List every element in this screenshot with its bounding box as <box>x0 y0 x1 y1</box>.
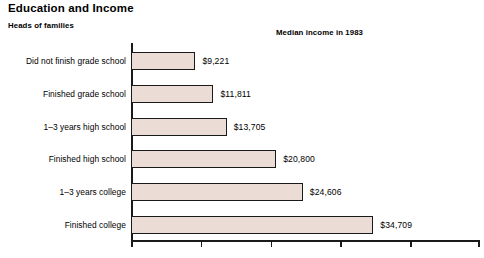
category-label: 1–3 years college <box>60 187 127 197</box>
page-title: Education and Income <box>8 2 134 14</box>
category-label-wrap: 1–3 years college <box>6 183 126 201</box>
category-label: Finished grade school <box>43 89 126 99</box>
category-label-wrap: Finished college <box>6 216 126 234</box>
bar-row: Finished high school$20,800 <box>131 150 478 168</box>
x-axis-tick <box>201 240 203 247</box>
bar-row: 1–3 years college$24,606 <box>131 183 478 201</box>
category-label: Finished college <box>65 220 126 230</box>
category-label: Did not finish grade school <box>26 56 126 66</box>
bar-value-label: $24,606 <box>310 187 342 197</box>
category-label: Finished high school <box>49 154 126 164</box>
x-axis-tick <box>271 240 273 247</box>
chart-subtitle-left: Heads of families <box>8 21 74 30</box>
bar <box>131 150 276 168</box>
bar-value-label: $11,811 <box>220 89 251 99</box>
x-axis-tick <box>340 240 342 247</box>
bar-value-label: $9,221 <box>202 56 229 66</box>
bar-value-label: $20,800 <box>283 154 315 164</box>
bar-row: 1–3 years high school$13,705 <box>131 118 478 136</box>
category-label: 1–3 years high school <box>43 122 126 132</box>
bar <box>131 183 303 201</box>
chart-container: Education and Income Heads of families M… <box>0 0 484 258</box>
bar-value-label: $34,709 <box>380 220 412 230</box>
bar <box>131 52 195 70</box>
bar-row: Did not finish grade school$9,221 <box>131 52 478 70</box>
bar <box>131 216 373 234</box>
bar-row: Finished college$34,709 <box>131 216 478 234</box>
bar <box>131 118 227 136</box>
category-label-wrap: Finished grade school <box>6 85 126 103</box>
category-label-wrap: 1–3 years high school <box>6 118 126 136</box>
x-axis-tick <box>478 240 480 247</box>
bar <box>131 85 213 103</box>
x-axis-line <box>131 240 478 242</box>
plot-area: Did not finish grade school$9,221Finishe… <box>131 43 478 240</box>
chart-subtitle-right: Median income in 1983 <box>276 28 363 37</box>
bar-value-label: $13,705 <box>234 122 266 132</box>
y-axis-line <box>131 43 133 240</box>
category-label-wrap: Finished high school <box>6 150 126 168</box>
x-axis-tick <box>131 240 133 247</box>
category-label-wrap: Did not finish grade school <box>6 52 126 70</box>
x-axis-tick <box>410 240 412 247</box>
bar-row: Finished grade school$11,811 <box>131 85 478 103</box>
